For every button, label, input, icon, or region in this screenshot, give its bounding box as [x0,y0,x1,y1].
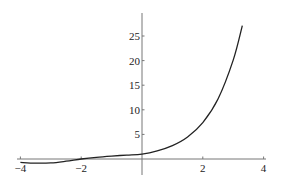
chart-plot-area: −4−224 510152025 [0,0,283,186]
y-tick-label: 20 [129,55,141,67]
x-axis: −4−224 [15,157,267,175]
x-tick-label: 4 [261,162,267,174]
y-tick-label: 15 [129,79,141,91]
data-series-line [20,26,242,164]
x-tick-label: −4 [15,162,27,174]
y-tick-label: 5 [135,128,141,140]
x-tick-label: 2 [200,162,206,174]
y-tick-label: 10 [129,104,141,116]
y-tick-label: 25 [129,30,141,42]
y-axis: 510152025 [129,13,145,175]
x-tick-label: −2 [75,162,87,174]
